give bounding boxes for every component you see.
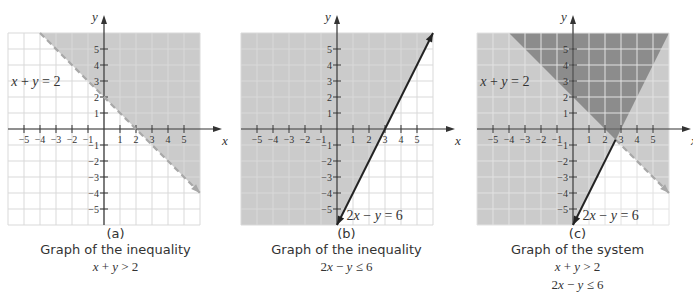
x-tick-label: 4 [166, 134, 171, 145]
y-tick-label: −3 [321, 172, 332, 183]
graph-b: xy−5−4−3−2−112345−5−4−3−2−1123452x − y =… [231, 0, 462, 230]
x-axis-arrow-icon [213, 126, 222, 132]
graph-a: xy−5−4−3−2−112345−5−4−3−2−112345x + y = … [0, 0, 231, 230]
panel-a-inequality: x + y > 2 [0, 259, 231, 275]
y-tick-label: 3 [327, 76, 332, 87]
y-axis-arrow-icon [570, 15, 576, 24]
y-axis-label: y [323, 9, 331, 24]
y-tick-label: −2 [557, 156, 568, 167]
panel-c: xy−5−4−3−2−112345−5−4−3−2−112345x + y = … [462, 0, 693, 306]
y-tick-label: 4 [327, 60, 332, 71]
x-axis-arrow-icon [446, 126, 455, 132]
x-tick-label: 4 [635, 134, 640, 145]
panel-b-inequality: 2x − y ≤ 6 [231, 259, 462, 275]
panel-b: xy−5−4−3−2−112345−5−4−3−2−1123452x − y =… [231, 0, 462, 306]
equation-label: 2x − y = 6 [583, 208, 639, 223]
x-axis-label: x [221, 133, 228, 148]
equation-label: 2x − y = 6 [347, 208, 403, 223]
y-tick-label: −4 [88, 188, 99, 199]
y-tick-label: −4 [557, 188, 568, 199]
x-tick-label: −4 [504, 134, 515, 145]
y-tick-label: −1 [557, 140, 568, 151]
panel-b-letter: (b) [231, 226, 462, 241]
y-axis-arrow-icon [101, 15, 107, 24]
y-tick-label: 2 [327, 92, 332, 103]
x-axis-label: x [454, 133, 461, 148]
x-tick-label: 2 [603, 134, 608, 145]
x-tick-label: 2 [134, 134, 139, 145]
x-tick-label: −2 [67, 134, 78, 145]
y-tick-label: 5 [94, 44, 99, 55]
y-tick-label: −1 [88, 140, 99, 151]
y-tick-label: 3 [563, 76, 568, 87]
x-tick-label: −5 [488, 134, 499, 145]
x-tick-label: 2 [367, 134, 372, 145]
y-tick-label: −4 [321, 188, 332, 199]
y-tick-label: −5 [88, 204, 99, 215]
x-tick-label: 1 [587, 134, 592, 145]
y-tick-label: 1 [563, 108, 568, 119]
x-tick-label: 1 [351, 134, 356, 145]
y-tick-label: 5 [327, 44, 332, 55]
panel-a: xy−5−4−3−2−112345−5−4−3−2−112345x + y = … [0, 0, 231, 306]
equation-label: x + y = 2 [479, 74, 529, 89]
x-tick-label: 3 [383, 134, 388, 145]
y-tick-label: −2 [88, 156, 99, 167]
y-tick-label: −5 [557, 204, 568, 215]
y-tick-label: 2 [563, 92, 568, 103]
y-axis-label: y [559, 9, 567, 24]
y-tick-label: 1 [327, 108, 332, 119]
x-axis-arrow-icon [682, 126, 691, 132]
x-tick-label: 4 [399, 134, 404, 145]
panel-b-title: Graph of the inequality [231, 242, 462, 257]
y-tick-label: 4 [563, 60, 568, 71]
y-axis-arrow-icon [334, 15, 340, 24]
x-tick-label: 5 [415, 134, 420, 145]
panel-a-title: Graph of the inequality [0, 242, 231, 257]
x-tick-label: −3 [51, 134, 62, 145]
y-tick-label: −3 [88, 172, 99, 183]
y-tick-label: 1 [94, 108, 99, 119]
x-tick-label: 5 [651, 134, 656, 145]
x-tick-label: −5 [19, 134, 30, 145]
y-axis-label: y [90, 9, 98, 24]
y-tick-label: 2 [94, 92, 99, 103]
x-tick-label: 5 [182, 134, 187, 145]
x-tick-label: −2 [300, 134, 311, 145]
x-tick-label: −4 [268, 134, 279, 145]
x-tick-label: 1 [118, 134, 123, 145]
y-tick-label: −5 [321, 204, 332, 215]
y-tick-label: −2 [321, 156, 332, 167]
y-tick-label: 3 [94, 76, 99, 87]
y-tick-label: 5 [563, 44, 568, 55]
x-tick-label: −3 [520, 134, 531, 145]
y-tick-label: 4 [94, 60, 99, 71]
panel-a-letter: (a) [0, 226, 231, 241]
x-tick-label: −3 [284, 134, 295, 145]
y-tick-label: −3 [557, 172, 568, 183]
graph-c: xy−5−4−3−2−112345−5−4−3−2−112345x + y = … [462, 0, 693, 230]
y-tick-label: −1 [321, 140, 332, 151]
equation-label: x + y = 2 [10, 74, 60, 89]
x-tick-label: −4 [35, 134, 46, 145]
panel-c-inequality-2: 2x − y ≤ 6 [462, 277, 693, 293]
figure: xy−5−4−3−2−112345−5−4−3−2−112345x + y = … [0, 0, 693, 306]
panel-c-letter: (c) [462, 226, 693, 241]
x-tick-label: −5 [252, 134, 263, 145]
panel-c-title: Graph of the system [462, 242, 693, 257]
x-tick-label: −2 [536, 134, 547, 145]
panel-c-inequality-1: x + y > 2 [462, 259, 693, 275]
